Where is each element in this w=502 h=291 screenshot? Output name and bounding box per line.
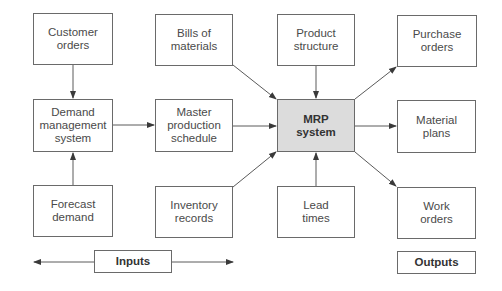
purchase-orders-label: Purchase orders (413, 28, 462, 54)
forecast-demand-box: Forecast demand (33, 185, 113, 237)
master-production-schedule-label: Master production schedule (167, 106, 221, 145)
mrp-system-box: MRP system (277, 99, 355, 152)
arrow-bills-to-mrp (233, 65, 276, 99)
inputs-legend-label: Inputs (116, 255, 151, 268)
demand-management-label: Demand management system (39, 106, 106, 145)
outputs-legend-label: Outputs (414, 256, 458, 269)
customer-orders-box: Customer orders (33, 13, 113, 65)
purchase-orders-box: Purchase orders (397, 15, 477, 67)
inputs-legend-box: Inputs (94, 250, 172, 273)
bills-of-materials-label: Bills of materials (171, 27, 218, 53)
arrow-mrp-to-work (355, 152, 396, 186)
product-structure-box: Product structure (277, 14, 355, 66)
arrow-inventory-to-mrp (233, 152, 276, 187)
mrp-system-label: MRP system (296, 113, 336, 139)
customer-orders-label: Customer orders (48, 26, 98, 52)
inventory-records-label: Inventory records (170, 199, 217, 225)
inventory-records-box: Inventory records (155, 186, 233, 238)
bills-of-materials-box: Bills of materials (155, 14, 233, 66)
material-plans-box: Material plans (397, 100, 476, 153)
demand-management-box: Demand management system (33, 99, 113, 152)
outputs-legend-box: Outputs (397, 251, 476, 274)
product-structure-label: Product structure (294, 27, 339, 53)
lead-times-label: Lead times (302, 199, 329, 225)
arrow-mrp-to-purchase (355, 67, 396, 99)
forecast-demand-label: Forecast demand (51, 198, 96, 224)
lead-times-box: Lead times (277, 186, 355, 238)
material-plans-label: Material plans (416, 114, 457, 140)
work-orders-label: Work orders (420, 200, 453, 226)
master-production-schedule-box: Master production schedule (155, 99, 233, 152)
work-orders-box: Work orders (397, 187, 476, 239)
